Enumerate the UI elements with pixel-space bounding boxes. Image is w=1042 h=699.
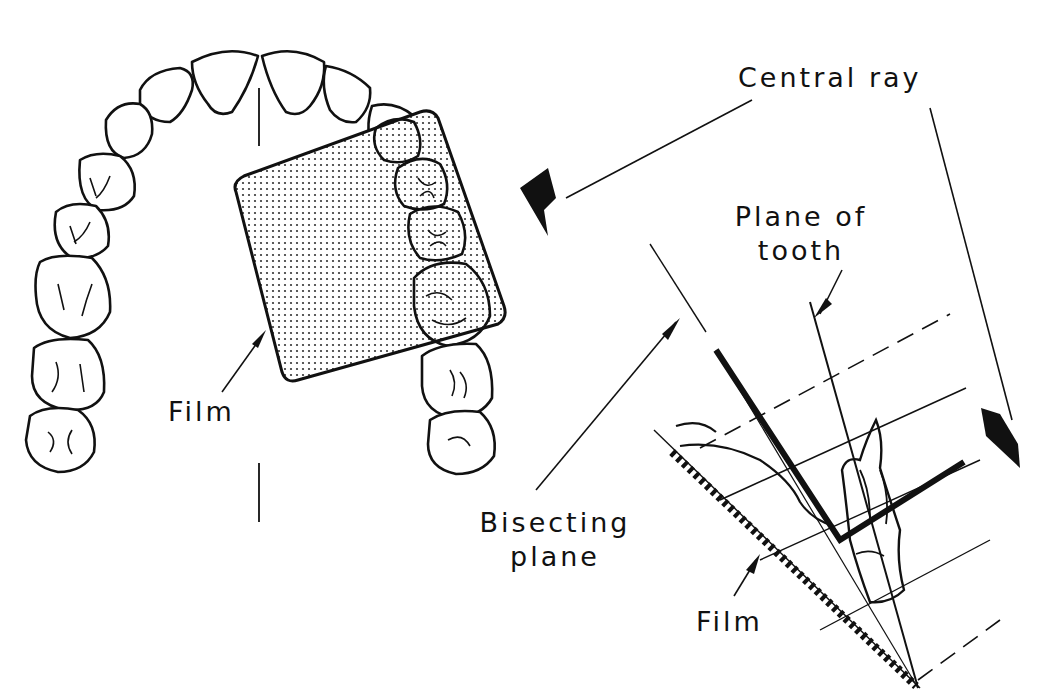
diagram-canvas: Central ray Plane of tooth Film Bisectin…: [0, 0, 1042, 699]
bisect-plane-extension: [650, 244, 706, 332]
film-arch-label: Film: [168, 398, 235, 425]
bisecting-plane-label: Bisecting plane: [470, 506, 640, 574]
central-ray-leader-left: [566, 100, 752, 198]
bisecting-plane-label-line1: Bisecting: [470, 506, 640, 540]
tooth-l5: [55, 204, 109, 258]
plane-of-tooth-label-line1: Plane of: [716, 200, 886, 234]
bisecting-plane-label-line2: plane: [470, 540, 640, 574]
dashed-ray-bottom: [918, 620, 1000, 680]
tooth-r1: [262, 51, 324, 114]
tooth-r9: [428, 411, 495, 474]
central-ray-leader-right: [930, 108, 1012, 420]
tooth-r8: [422, 344, 492, 418]
central-ray-arrow-right: [981, 408, 1020, 468]
tooth-l8: [26, 408, 95, 472]
central-ray: [520, 100, 1020, 468]
plane-of-tooth-label-line2: tooth: [716, 234, 886, 268]
diagram-drawing: [0, 0, 1042, 699]
central-ray-label: Central ray: [738, 64, 922, 91]
film-side-pointer: [734, 554, 760, 596]
ray-line-4: [820, 540, 990, 630]
tooth-r2: [324, 66, 370, 122]
plane-of-tooth-pointer: [814, 270, 842, 318]
film-strip-side: [672, 452, 916, 686]
central-ray-arrow-left: [520, 168, 556, 236]
film-arch-pointer: [222, 330, 266, 392]
tooth-l6: [36, 256, 111, 338]
tooth-l3: [106, 103, 152, 158]
tooth-l7: [32, 339, 104, 410]
plane-of-tooth-label: Plane of tooth: [716, 200, 886, 268]
film-side-label: Film: [696, 608, 763, 635]
bisecting-plane-pointer: [536, 318, 680, 490]
tooth-l1: [192, 51, 258, 114]
